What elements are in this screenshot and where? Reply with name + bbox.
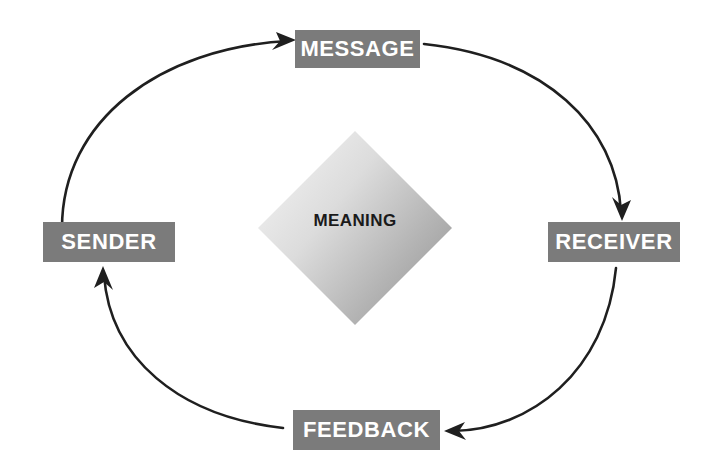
node-message-label: MESSAGE <box>300 36 414 62</box>
node-feedback-label: FEEDBACK <box>303 417 430 443</box>
arrow-message-to-receiver <box>424 44 631 221</box>
node-feedback[interactable]: FEEDBACK <box>293 410 440 450</box>
meaning-diamond-group: MEANING <box>258 131 452 325</box>
arrow-feedback-to-sender <box>94 266 283 428</box>
node-sender[interactable]: SENDER <box>43 222 175 262</box>
meaning-diamond-shape <box>258 131 452 325</box>
node-receiver[interactable]: RECEIVER <box>548 222 680 262</box>
node-sender-label: SENDER <box>61 229 156 255</box>
node-receiver-label: RECEIVER <box>555 229 672 255</box>
arrow-receiver-to-feedback <box>444 268 616 440</box>
node-message[interactable]: MESSAGE <box>295 30 420 68</box>
communication-cycle-diagram: MEANING MESSAGE SENDER RECEIVER FEEDBACK <box>0 0 709 471</box>
